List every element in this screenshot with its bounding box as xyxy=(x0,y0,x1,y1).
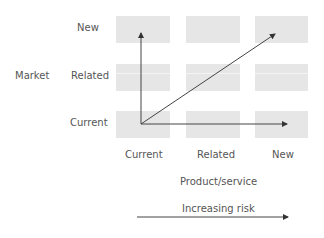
arrows-layer xyxy=(0,0,324,238)
arrow-diagonal-diversification xyxy=(141,34,275,124)
